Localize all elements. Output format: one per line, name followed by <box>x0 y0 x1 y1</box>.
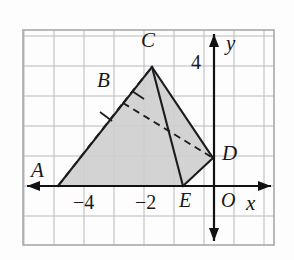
x-axis-tick-label-neg2: −2 <box>135 192 156 212</box>
origin-label: O <box>221 190 235 210</box>
vertex-label-e: E <box>179 190 191 210</box>
y-axis-label: y <box>226 33 235 54</box>
vertex-label-d: D <box>222 143 237 164</box>
x-axis-label: x <box>246 193 255 214</box>
vertex-label-c: C <box>141 30 155 51</box>
vertex-label-b: B <box>97 70 110 91</box>
y-axis-tick-label-4: 4 <box>191 52 201 72</box>
geometry-figure: A B C D E O x y 4 −4 −2 <box>0 0 294 260</box>
x-axis-tick-label-neg4: −4 <box>73 192 94 212</box>
vertex-label-a: A <box>31 160 44 181</box>
